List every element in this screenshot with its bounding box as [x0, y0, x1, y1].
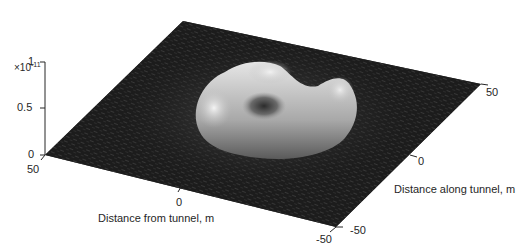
- y-tick-neg50: -50: [350, 224, 366, 236]
- z-tick-0-5: 0.5: [17, 101, 32, 113]
- z-tick-0: 0: [28, 148, 34, 160]
- x-axis-label: Distance from tunnel, m: [98, 212, 214, 224]
- z-tick-1: 1: [28, 55, 34, 67]
- x-tick-50: 50: [27, 163, 39, 175]
- y-axis-label: Distance along tunnel, m: [394, 183, 515, 195]
- surface-plot: [0, 0, 524, 250]
- x-tick-0: 0: [176, 196, 182, 208]
- y-tick-50: 50: [486, 86, 498, 98]
- x-tick-neg50: -50: [316, 233, 332, 245]
- y-tick-0: 0: [418, 155, 424, 167]
- z-axis: [40, 62, 45, 160]
